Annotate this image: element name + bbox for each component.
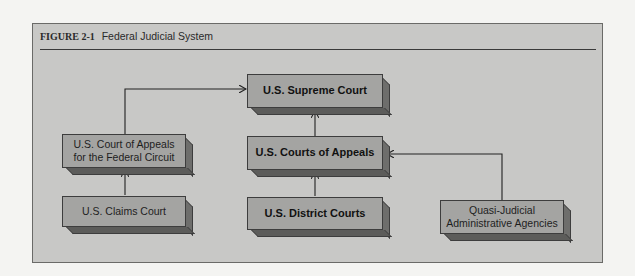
- node-label-line1: Quasi-Judicial: [469, 204, 535, 216]
- node-claims-court: U.S. Claims Court: [62, 196, 186, 227]
- arrow-agencies-to-appeals: [387, 154, 502, 200]
- arrow-federal-circuit-to-supreme: [125, 89, 246, 134]
- node-district-courts: U.S. District Courts: [247, 197, 383, 230]
- node-federal-circuit: U.S. Court of Appeals for the Federal Ci…: [62, 134, 186, 168]
- box-bottom-shade: [251, 108, 392, 115]
- node-label: U.S. Claims Court: [82, 205, 166, 218]
- node-label: U.S. Supreme Court: [263, 84, 367, 98]
- box-bottom-shade: [251, 230, 392, 237]
- node-label: U.S. District Courts: [265, 207, 366, 221]
- box-bottom-shade: [444, 234, 573, 241]
- node-label-line2: Administrative Agencies: [446, 217, 557, 229]
- box-bottom-shade: [66, 227, 195, 234]
- box-bottom-shade: [66, 168, 195, 175]
- node-supreme-court: U.S. Supreme Court: [247, 74, 383, 108]
- node-label: U.S. Courts of Appeals: [256, 146, 375, 160]
- node-label-line1: U.S. Court of Appeals: [74, 138, 175, 150]
- node-courts-of-appeals: U.S. Courts of Appeals: [247, 136, 383, 170]
- node-label: U.S. Court of Appeals for the Federal Ci…: [74, 138, 175, 164]
- box-bottom-shade: [251, 170, 392, 177]
- node-administrative-agencies: Quasi-Judicial Administrative Agencies: [440, 200, 564, 234]
- node-label: Quasi-Judicial Administrative Agencies: [446, 204, 557, 230]
- node-label-line2: for the Federal Circuit: [74, 151, 175, 163]
